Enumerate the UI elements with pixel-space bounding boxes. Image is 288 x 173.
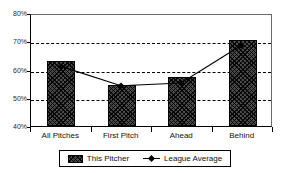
chart-legend: This Pitcher League Average bbox=[59, 150, 231, 167]
legend-label-this-pitcher: This Pitcher bbox=[87, 154, 129, 163]
line-series-league-average bbox=[31, 15, 271, 126]
x-tick-mark bbox=[272, 127, 273, 132]
y-tick-label: 60% bbox=[1, 67, 27, 74]
legend-entry-this-pitcher[interactable]: This Pitcher bbox=[68, 154, 129, 163]
y-tick-label: 80% bbox=[1, 10, 27, 17]
x-category-label: All Pitches bbox=[30, 131, 90, 140]
league-average-line bbox=[61, 46, 241, 86]
y-tick-label: 70% bbox=[1, 38, 27, 45]
league-average-data-point-marker bbox=[118, 82, 125, 89]
line-marker-swatch-icon bbox=[143, 155, 160, 163]
league-average-data-point-marker bbox=[178, 80, 185, 87]
y-tick-label: 50% bbox=[1, 95, 27, 102]
hatched-bar-swatch-icon bbox=[68, 155, 83, 163]
legend-entry-league-average[interactable]: League Average bbox=[143, 154, 222, 163]
x-category-label: First Pitch bbox=[91, 131, 151, 140]
x-category-label: Behind bbox=[212, 131, 272, 140]
league-average-data-point-marker bbox=[58, 63, 65, 70]
legend-label-league-average: League Average bbox=[164, 154, 222, 163]
x-category-label: Ahead bbox=[151, 131, 211, 140]
league-average-data-point-marker bbox=[238, 42, 245, 49]
strike-percentage-chart: Strike Percentage 40%50%60%70%80% All Pi… bbox=[0, 0, 288, 173]
y-tick-label: 40% bbox=[1, 123, 27, 130]
plot-area bbox=[30, 14, 272, 127]
